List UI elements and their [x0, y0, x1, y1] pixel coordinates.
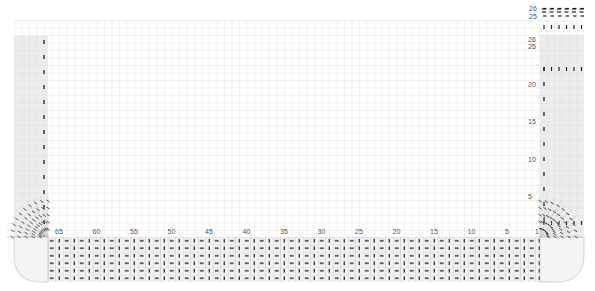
row-label: 10 — [528, 156, 536, 163]
svg-text:26: 26 — [529, 5, 537, 12]
stitch-label: 10 — [468, 228, 476, 235]
knitting-chart: 2625 65605550454035302520151051 26252015… — [0, 0, 595, 291]
chart-grid — [14, 20, 583, 237]
row-label: 26 — [528, 36, 536, 43]
stitch-label: 65 — [55, 228, 63, 235]
row-label: 15 — [528, 118, 536, 125]
stitch-label: 5 — [505, 228, 509, 235]
bottom-band — [48, 237, 540, 282]
row-label: 5 — [528, 193, 532, 200]
stitch-label: 20 — [393, 228, 401, 235]
stitch-label: 30 — [318, 228, 326, 235]
stitch-label: 60 — [93, 228, 101, 235]
row-label: 20 — [528, 81, 536, 88]
stitch-label: 25 — [355, 228, 363, 235]
svg-text:25: 25 — [529, 13, 537, 20]
stitch-label: 35 — [280, 228, 288, 235]
row-label: 25 — [528, 43, 536, 50]
stitch-label: 15 — [430, 228, 438, 235]
stitch-label: 40 — [243, 228, 251, 235]
stitch-label: 1 — [535, 228, 539, 235]
stitch-label: 50 — [168, 228, 176, 235]
stitch-label: 55 — [130, 228, 138, 235]
stitch-label: 45 — [205, 228, 213, 235]
